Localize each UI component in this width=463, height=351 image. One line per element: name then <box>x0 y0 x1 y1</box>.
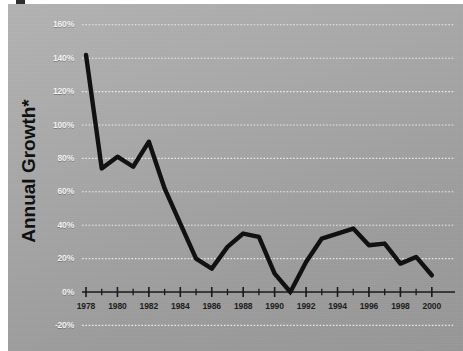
y-tick-label: 80% <box>30 153 74 163</box>
y-tick-label: 60% <box>30 186 74 196</box>
y-tick-label: 140% <box>30 53 74 63</box>
y-tick-label: 20% <box>30 253 74 263</box>
y-tick-label: 40% <box>30 220 74 230</box>
x-tick-label: 2000 <box>412 301 452 311</box>
y-tick-label: -20% <box>30 320 74 330</box>
y-tick-label: 160% <box>30 19 74 29</box>
y-tick-label: 100% <box>30 120 74 130</box>
data-series-line <box>86 55 432 292</box>
y-tick-label: 120% <box>30 86 74 96</box>
chart-screenshot: Annual Growth* 160%140%120%100%80%60%40%… <box>0 0 463 351</box>
y-tick-label: 0% <box>30 287 74 297</box>
